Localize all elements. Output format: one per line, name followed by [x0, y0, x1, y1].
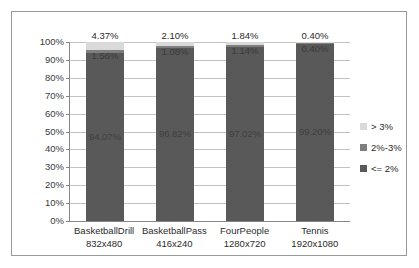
category-resolution: 416x240: [139, 237, 209, 250]
bar-segment[interactable]: [296, 42, 334, 43]
bar-segment[interactable]: 97.02%: [226, 47, 264, 221]
category-resolution: 1280x720: [210, 237, 280, 250]
y-axis-tick-label: 60%: [45, 109, 64, 119]
chart-legend: > 3%2%-3%<= 2%: [360, 116, 416, 179]
bar-segment-label: 94.07%: [89, 132, 121, 142]
category-name: FourPeople: [210, 224, 280, 237]
bar-segment-label: 0.40%: [302, 31, 329, 41]
bar-segment[interactable]: 1.14%: [226, 45, 264, 47]
category-resolution: 832x480: [69, 237, 139, 250]
bar-segment-label: 2.10%: [162, 31, 189, 41]
category-name: BasketballPass: [139, 224, 209, 237]
category-name: Tennis: [280, 224, 350, 237]
y-axis-tick: [66, 221, 70, 222]
legend-swatch-icon: [360, 165, 367, 172]
y-axis-tick-label: 100%: [40, 37, 64, 47]
gridline: [70, 221, 350, 222]
bar-segment[interactable]: 1.56%: [86, 50, 124, 53]
x-axis-category-label: Tennis1920x1080: [280, 224, 350, 250]
bar-segment-label: 1.08%: [162, 47, 189, 57]
bar-segment[interactable]: 99.20%: [296, 43, 334, 221]
y-axis-tick-label: 10%: [45, 198, 64, 208]
legend-item[interactable]: > 3%: [360, 116, 416, 137]
bar-stack[interactable]: 96.82%1.08%2.10%: [156, 42, 194, 221]
bar-segment[interactable]: 1.08%: [156, 46, 194, 48]
legend-swatch-icon: [360, 123, 367, 130]
legend-item-label: 2%-3%: [371, 143, 402, 153]
legend-item-label: > 3%: [371, 122, 393, 132]
bar-stack[interactable]: 94.07%1.56%4.37%: [86, 42, 124, 221]
x-axis-labels: BasketballDrill832x480BasketballPass416x…: [69, 224, 350, 258]
y-axis-tick-label: 80%: [45, 73, 64, 83]
x-axis-category-label: FourPeople1280x720: [210, 224, 280, 250]
bar-stack[interactable]: 97.02%1.14%1.84%: [226, 42, 264, 221]
category-name: BasketballDrill: [69, 224, 139, 237]
x-axis-category-label: BasketballPass416x240: [139, 224, 209, 250]
bar-group[interactable]: 99.20%0.40%0.40%: [280, 42, 350, 221]
bar-segment-label: 1.56%: [92, 51, 119, 61]
bar-stack[interactable]: 99.20%0.40%0.40%: [296, 42, 334, 221]
bar-segment-label: 1.14%: [232, 46, 259, 56]
y-axis-tick-label: 70%: [45, 91, 64, 101]
y-axis-tick-label: 50%: [45, 127, 64, 137]
bar-segment[interactable]: 96.82%: [156, 48, 194, 221]
bar-segment-label: 4.37%: [92, 31, 119, 41]
y-axis-tick-label: 40%: [45, 145, 64, 155]
y-axis-tick-label: 90%: [45, 55, 64, 65]
bar-segment[interactable]: 0.40%: [296, 43, 334, 44]
bar-segment-label: 0.40%: [302, 44, 329, 54]
bar-segment[interactable]: [86, 42, 124, 50]
y-axis-tick-label: 30%: [45, 163, 64, 173]
bar-group[interactable]: 96.82%1.08%2.10%: [140, 42, 210, 221]
bar-segment[interactable]: [156, 42, 194, 46]
category-resolution: 1920x1080: [280, 237, 350, 250]
bar-segment-label: 99.20%: [299, 127, 331, 137]
bar-segment-label: 97.02%: [229, 129, 261, 139]
legend-item-label: <= 2%: [371, 164, 398, 174]
y-axis-tick-label: 20%: [45, 180, 64, 190]
plot-area: 100%90%80%70%60%50%40%30%20%10%0% 94.07%…: [69, 42, 350, 221]
stacked-bar-chart: 100%90%80%70%60%50%40%30%20%10%0% 94.07%…: [0, 0, 419, 268]
bars-layer: 94.07%1.56%4.37%96.82%1.08%2.10%97.02%1.…: [70, 42, 350, 221]
legend-item[interactable]: 2%-3%: [360, 137, 416, 158]
bar-group[interactable]: 97.02%1.14%1.84%: [210, 42, 280, 221]
bar-group[interactable]: 94.07%1.56%4.37%: [70, 42, 140, 221]
legend-item[interactable]: <= 2%: [360, 158, 416, 179]
bar-segment[interactable]: [226, 42, 264, 45]
bar-segment-label: 1.84%: [232, 31, 259, 41]
y-axis-tick-label: 0%: [50, 216, 64, 226]
legend-swatch-icon: [360, 144, 367, 151]
chart-frame: 100%90%80%70%60%50%40%30%20%10%0% 94.07%…: [11, 11, 407, 256]
x-axis-category-label: BasketballDrill832x480: [69, 224, 139, 250]
bar-segment[interactable]: 94.07%: [86, 53, 124, 221]
bar-segment-label: 96.82%: [159, 129, 191, 139]
